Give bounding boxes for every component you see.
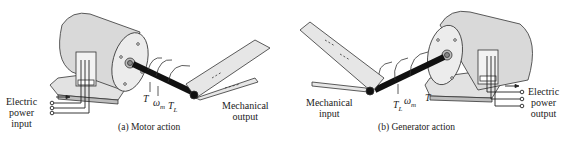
electric-power-output-label: Electric power output (528, 86, 559, 119)
caption-motor-action: (a) Motor action (118, 122, 180, 132)
caption-generator-action: (b) Generator action (378, 122, 455, 132)
mechanical-input-label: Mechanical input (306, 97, 353, 119)
torque-symbol-a: T (143, 93, 149, 104)
diagram-canvas (0, 0, 571, 147)
electric-power-input-label: Electric power input (6, 96, 37, 129)
speed-symbol-a: ωm (153, 97, 165, 111)
mechanical-output-label: Mechanical output (222, 100, 269, 122)
speed-symbol-b: ωm (404, 95, 416, 109)
belt-input (300, 22, 384, 95)
load-torque-symbol-b: TL (393, 99, 402, 113)
torque-symbol-b: T (425, 92, 431, 103)
motor-machine (50, 13, 154, 104)
load-torque-symbol-a: TL (168, 100, 177, 114)
belt-output (186, 40, 270, 100)
